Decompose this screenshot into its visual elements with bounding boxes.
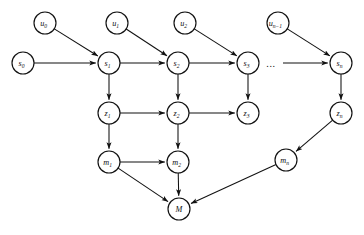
node-u1: u1 (106, 12, 128, 34)
edge-u0-to-s1 (54, 29, 97, 56)
node-u0: u0 (34, 12, 56, 34)
node-z3: z3 (237, 102, 259, 124)
node-label-M: M (175, 205, 184, 214)
node-m2: m2 (167, 151, 189, 173)
node-s2: s2 (167, 52, 189, 74)
edge-un1-to-sn (287, 29, 330, 56)
node-un1: un−1 (267, 12, 289, 34)
graph-canvas: u0u1u2un−1s0s1s2s3snz1z2z3znm1m2mnM ... (0, 0, 364, 235)
edge-u2-to-s3 (194, 29, 237, 56)
edge-zn-to-mn (296, 120, 333, 151)
node-zn: zn (330, 102, 352, 124)
edge-u1-to-s2 (126, 29, 167, 56)
node-mn: mn (275, 149, 297, 171)
annotations-layer: ... (266, 58, 276, 69)
node-s3: s3 (237, 52, 259, 74)
nodes-layer: u0u1u2un−1s0s1s2s3snz1z2z3znm1m2mnM (12, 12, 352, 220)
node-z2: z2 (167, 102, 189, 124)
node-s0: s0 (12, 52, 34, 74)
ellipsis-label: ... (266, 58, 276, 69)
node-m1: m1 (98, 151, 120, 173)
edge-m1-to-M (118, 168, 168, 202)
node-M: M (168, 198, 190, 220)
edge-mn-to-M (191, 165, 276, 204)
node-u2: u2 (174, 12, 196, 34)
node-z1: z1 (98, 102, 120, 124)
graphical-model-diagram: u0u1u2un−1s0s1s2s3snz1z2z3znm1m2mnM ... (0, 0, 364, 235)
node-sn: sn (330, 52, 352, 74)
node-s1: s1 (98, 52, 120, 74)
